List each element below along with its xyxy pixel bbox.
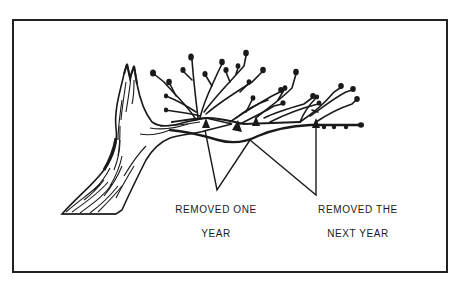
label-line: YEAR [160, 222, 272, 246]
callout-label-removed-next-year: REMOVED THE NEXT YEAR [302, 198, 414, 246]
callout-lines [205, 126, 316, 195]
callout-label-removed-one-year: REMOVED ONE YEAR [160, 198, 272, 246]
label-line: REMOVED THE [302, 198, 414, 222]
branches-icon [154, 56, 356, 124]
label-line: REMOVED ONE [160, 198, 272, 222]
label-line: NEXT YEAR [302, 222, 414, 246]
